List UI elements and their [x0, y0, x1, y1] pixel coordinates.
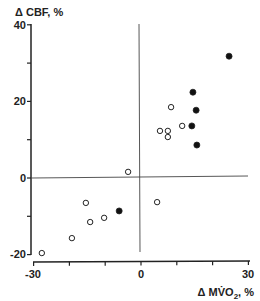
y-tick-label-20: 20	[14, 95, 26, 107]
y-tick-label-40: 40	[14, 19, 26, 31]
data-point-filled	[190, 89, 196, 95]
y-axis-title: Δ CBF, %	[15, 6, 63, 18]
data-point-open	[39, 250, 44, 255]
data-point-open	[83, 200, 88, 205]
y-tick-label-0: 0	[20, 172, 26, 184]
data-point-open	[154, 199, 159, 204]
x-tick-label-0: 0	[138, 268, 144, 280]
x-axis-title: Δ MV̇O2, %	[198, 286, 255, 301]
x-tick-label-30: 30	[242, 268, 254, 280]
zero-line-vertical	[139, 24, 140, 252]
data-point-open	[157, 128, 162, 133]
data-point-open	[69, 235, 74, 240]
data-point-filled	[194, 142, 200, 148]
data-point-open	[101, 215, 106, 220]
x-tick-label-neg30: -30	[25, 268, 41, 280]
data-point-filled	[189, 123, 195, 129]
data-point-filled	[116, 208, 122, 214]
data-point-open	[179, 123, 184, 128]
data-points	[39, 53, 232, 256]
scatter-chart: 40 20 0 -20 -30 0 30 Δ CBF, % Δ MV̇O2, %	[0, 0, 260, 301]
data-point-open	[165, 134, 170, 139]
data-point-filled	[226, 53, 232, 59]
data-point-open	[125, 169, 130, 174]
data-point-open	[165, 128, 170, 133]
data-point-filled	[193, 107, 199, 113]
data-point-open	[87, 219, 92, 224]
data-point-open	[168, 104, 173, 109]
y-tick-label-neg20: -20	[10, 248, 26, 260]
